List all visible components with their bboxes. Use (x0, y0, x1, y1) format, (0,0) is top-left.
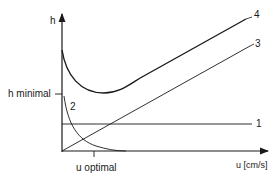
curve-4 (62, 19, 246, 93)
u-optimal-label: u optimal (76, 162, 117, 173)
label-leader-3 (250, 44, 254, 46)
curve-3 (62, 46, 250, 151)
x-axis-label: u [cm/s] (236, 160, 268, 170)
curve-4-label: 4 (254, 9, 260, 20)
curve-2-label: 2 (70, 101, 76, 112)
h-minimal-label: h minimal (8, 88, 51, 99)
van-deemter-diagram: h u [cm/s] h minimal u optimal 1 2 3 4 (0, 0, 280, 182)
y-axis-label: h (50, 15, 56, 26)
curve-3-label: 3 (255, 38, 261, 49)
curve-1-label: 1 (256, 118, 262, 129)
label-leader-4 (246, 17, 252, 19)
